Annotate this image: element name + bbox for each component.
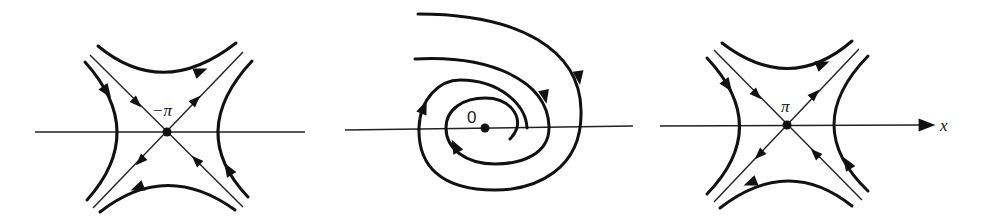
spiral-trajectory-inner	[415, 59, 549, 164]
trajectory-top	[722, 41, 852, 69]
arrow-icon	[416, 98, 431, 115]
trajectory-bottom	[100, 185, 235, 212]
trajectory-right	[834, 56, 868, 191]
equilibrium-label: −π	[152, 101, 172, 120]
spiral-panel: 0	[345, 14, 633, 190]
arrow-icon	[719, 77, 736, 95]
trajectory-left	[85, 62, 117, 200]
arrow-icon	[133, 154, 148, 169]
trajectory-bottom	[720, 181, 852, 208]
arrow-icon	[130, 96, 145, 111]
axis-label: x	[939, 116, 948, 135]
phase-portrait-figure: −π 0 x π	[0, 0, 981, 222]
arrow-icon	[808, 87, 823, 102]
trajectory-right	[218, 61, 252, 197]
equilibrium-point	[163, 128, 172, 137]
saddle-panel-left: −π	[35, 43, 305, 212]
arrow-icon	[220, 160, 237, 178]
arrow-icon	[750, 88, 765, 103]
equilibrium-label: 0	[467, 108, 476, 127]
equilibrium-label: π	[781, 97, 790, 116]
arrow-icon	[98, 83, 115, 101]
equilibrium-point	[783, 121, 792, 130]
trajectory-top	[98, 43, 236, 72]
saddle-panel-right: x π	[660, 41, 948, 208]
axis-arrow-icon	[919, 118, 936, 131]
equilibrium-point	[481, 124, 490, 133]
